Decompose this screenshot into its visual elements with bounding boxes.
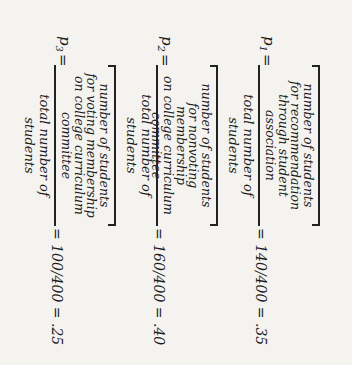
eq-label: p3 xyxy=(54,36,74,52)
result: = 100/400 = .25 xyxy=(49,228,65,345)
numerator: number of students for voting membership… xyxy=(60,65,110,226)
numerator: number of students for nonvoting members… xyxy=(150,65,213,226)
eq-label: p2 xyxy=(156,36,176,52)
fraction-line xyxy=(54,65,56,226)
fraction-line xyxy=(156,65,158,226)
numerator: number of students for recommendation th… xyxy=(264,65,314,226)
result: = 140/400 = .35 xyxy=(253,228,269,345)
equation-p2: p2 = number of students for nonvoting me… xyxy=(134,0,234,365)
equation-p1: p1 = number of students for recommendati… xyxy=(236,0,336,365)
denominator: total number of students xyxy=(22,65,52,226)
rotated-page: p1 = number of students for recommendati… xyxy=(0,0,352,365)
equation-p3: p3 = number of students for voting membe… xyxy=(32,0,132,365)
document-frame: p1 = number of students for recommendati… xyxy=(0,0,352,365)
fraction-line xyxy=(258,65,260,226)
eq-label: p1 xyxy=(258,36,278,52)
result: = 160/400 = .40 xyxy=(151,228,167,345)
